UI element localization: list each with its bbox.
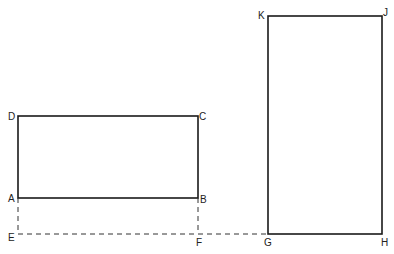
label-g: G: [264, 237, 272, 248]
label-b: B: [200, 194, 207, 205]
label-h: H: [381, 237, 388, 248]
label-k: K: [258, 10, 265, 21]
label-c: C: [199, 111, 206, 122]
label-e: E: [8, 232, 15, 243]
rectangle-abcd: [18, 116, 198, 198]
label-j: J: [383, 7, 388, 18]
label-f: F: [196, 237, 202, 248]
geometry-diagram: D C A B E F G H K J: [0, 0, 394, 254]
label-d: D: [8, 111, 15, 122]
label-a: A: [8, 193, 15, 204]
rectangle-ghjk: [268, 16, 382, 234]
